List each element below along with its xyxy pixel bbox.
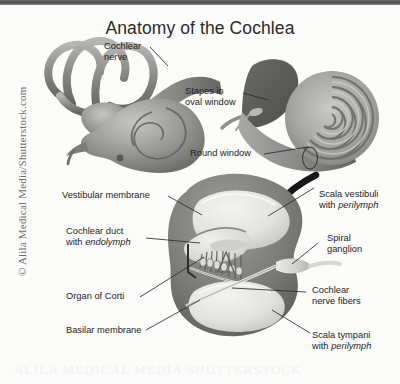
label-cochlear-nerve-line1: Cochlear [104,41,141,52]
label-scala-tympani-line1: Scala tympani [312,330,371,341]
label-cochlear-nerve-line2: nerve [104,52,141,63]
label-scala-vestibuli-italic: perilymph [338,200,378,210]
label-stapes-line2: oval window [185,97,236,108]
label-cochlear-nerve: Cochlear nerve [104,41,141,64]
label-cochlear-duct-line2: with endolymph [66,237,131,248]
label-cochlear-nerve-fibers-line2: nerve fibers [312,296,361,307]
label-spiral-ganglion-line1: Spiral [327,233,362,244]
label-round-window: Round window [190,148,251,159]
label-spiral-ganglion-line2: ganglion [327,244,362,255]
label-cochlear-nerve-fibers: Cochlear nerve fibers [312,285,361,308]
label-scala-tympani: Scala tympani with perilymph [312,330,371,353]
label-stapes-line1: Stapes in [185,86,236,97]
label-stapes-oval-window: Stapes in oval window [185,86,236,109]
label-basilar-membrane-line1: Basilar membrane [66,325,141,336]
label-cochlear-duct: Cochlear duct with endolymph [66,226,131,249]
label-round-window-line1: Round window [190,148,251,159]
label-cochlear-duct-line1: Cochlear duct [66,226,131,237]
label-organ-of-corti-line1: Organ of Corti [66,291,124,302]
label-vestibular-membrane-line1: Vestibular membrane [62,190,150,201]
label-basilar-membrane: Basilar membrane [66,325,141,336]
label-organ-of-corti: Organ of Corti [66,291,124,302]
cross-section-graphic [168,174,340,336]
label-scala-vestibuli: Scala vestibuli with perilymph [319,189,378,212]
figure-canvas: Anatomy of the Cochlea [0,0,400,384]
label-vestibular-membrane: Vestibular membrane [62,190,150,201]
label-spiral-ganglion: Spiral ganglion [327,233,362,256]
label-scala-vestibuli-line2: with perilymph [319,200,378,211]
label-cochlear-nerve-fibers-line1: Cochlear [312,285,361,296]
label-scala-tympani-line2: with perilymph [312,341,371,352]
label-scala-tympani-italic: perilymph [331,341,371,351]
bottom-watermark: ALILA MEDICAL MEDIA SHUTTERSTOCK [14,362,386,378]
label-scala-vestibuli-line1: Scala vestibuli [319,189,378,200]
label-cochlear-duct-italic: endolymph [85,237,130,247]
copyright-watermark: © Alila Medical Media/Shutterstock.com [16,76,28,276]
